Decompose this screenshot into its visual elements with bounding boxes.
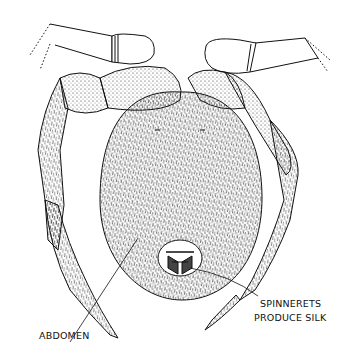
spinnerets <box>158 240 202 276</box>
spinnerets-label-line2: PRODUCE SILK <box>254 311 327 324</box>
abdomen-label: ABDOMEN <box>39 329 90 342</box>
upper-right-leg <box>205 38 330 73</box>
upper-left-leg <box>30 24 154 70</box>
spinnerets-label-line1: SPINNERETS <box>260 297 321 310</box>
